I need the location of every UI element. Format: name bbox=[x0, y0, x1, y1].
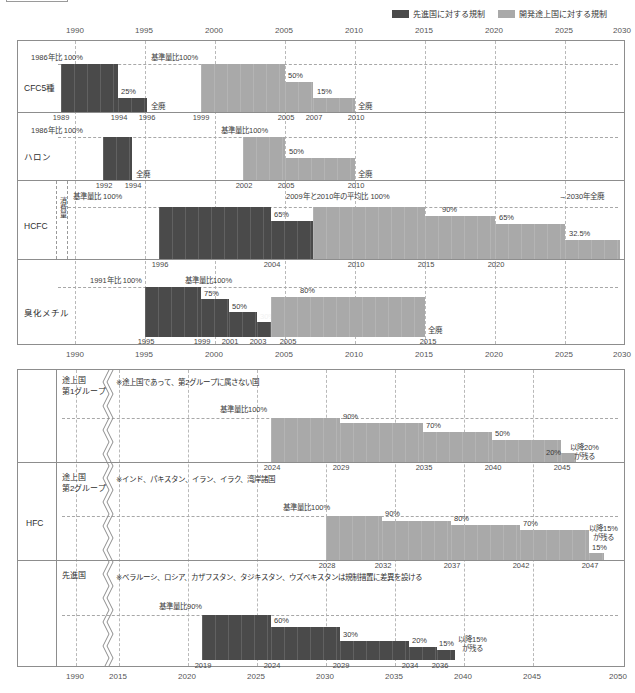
hfc-g1-year-tick: 2040 bbox=[485, 464, 502, 473]
bottom-axis-tick: 2045 bbox=[523, 672, 541, 681]
bar-halon-developed-100 bbox=[103, 137, 132, 180]
hfc-gutter-divider bbox=[56, 370, 57, 666]
hcfc-year-tick: 2010 bbox=[348, 261, 365, 270]
mid-axis-tick: 2030 bbox=[613, 350, 631, 359]
bar-hfc-g1-100 bbox=[271, 418, 340, 462]
top-axis-scale: 1990 1995 2000 2005 2010 2015 2020 2025 … bbox=[0, 26, 635, 38]
top-axis-tick: 1990 bbox=[66, 26, 84, 35]
cfc-year-tick: 1989 bbox=[53, 114, 70, 123]
bar-hfc-g2-90 bbox=[382, 521, 451, 560]
mid-axis-tick: 2010 bbox=[345, 350, 363, 359]
hfc-group1-title: 途上国 第1グループ bbox=[62, 376, 106, 398]
mebr-year-tick: 2003 bbox=[250, 338, 267, 347]
mebr-year-tick: 1999 bbox=[194, 338, 211, 347]
hfc-g3-year-tick: 2034 bbox=[402, 662, 419, 671]
top-axis-tick: 2010 bbox=[345, 26, 363, 35]
bar-hcfc-developing-90 bbox=[425, 216, 495, 259]
bar-mebr-developed-75 bbox=[201, 299, 229, 337]
hfc-group1-value-90: 90% bbox=[343, 413, 358, 422]
hfc-group1-value-70: 70% bbox=[426, 422, 441, 431]
hcfc-developing-value-32: 32.5% bbox=[569, 230, 590, 239]
gridline-2015 bbox=[425, 41, 426, 344]
cfc-year-tick: 1999 bbox=[193, 114, 210, 123]
panel-ozone-substances: CFC5種 1986年比 100% 基準量比100% 25% 全廃 50% 15… bbox=[17, 40, 625, 345]
mebr-developing-value-80: 80% bbox=[300, 287, 315, 296]
bar-halon-developing-100 bbox=[243, 137, 285, 180]
hfc-group2-title: 途上国 第2グループ bbox=[62, 473, 106, 495]
bar-cfc-developing-50 bbox=[285, 82, 313, 112]
hcfc-developed-baseline-label: 基準量比 100% bbox=[73, 193, 122, 202]
row-label-hcfc: HCFC bbox=[24, 221, 48, 231]
gridline-2015-b bbox=[119, 370, 120, 666]
top-axis-tick: 2025 bbox=[555, 26, 573, 35]
bar-hcfc-developing-100 bbox=[313, 207, 425, 259]
cfc-year-tick: 1994 bbox=[111, 114, 128, 123]
row-label-hfc: HFC bbox=[26, 518, 43, 528]
halon-year-tick: 2002 bbox=[236, 182, 253, 191]
hfc-group3-value-30: 30% bbox=[343, 631, 358, 640]
mid-axis-tick: 2025 bbox=[555, 350, 573, 359]
cfc-year-tick: 2007 bbox=[306, 114, 323, 123]
legend-item-developing: 開発途上国に対する規制 bbox=[498, 8, 607, 19]
bottom-axis-tick: 2020 bbox=[178, 672, 196, 681]
bar-hfc-g3-15 bbox=[437, 650, 455, 660]
legend-label-developed: 先進国に対する規制 bbox=[413, 8, 485, 19]
bottom-axis-tick: 2025 bbox=[247, 672, 265, 681]
cropped-top-box bbox=[6, 0, 68, 2]
cfc-developing-baseline-label: 基準量比100% bbox=[151, 54, 198, 63]
mebr-developed-value-50: 50% bbox=[232, 303, 247, 312]
halon-year-tick: 2010 bbox=[348, 182, 365, 191]
hfc-group3-value-15: 15% bbox=[439, 640, 454, 649]
bar-hfc-g2-80 bbox=[451, 525, 520, 560]
cfc-year-tick: 1996 bbox=[139, 114, 156, 123]
row-label-mebr: 臭化メチル bbox=[24, 306, 69, 318]
hfc-g3-year-tick: 2024 bbox=[264, 662, 281, 671]
halon-developing-baseline-label: 基準量比100% bbox=[221, 127, 268, 136]
cfc-year-tick: 2010 bbox=[348, 114, 365, 123]
hfc-g2-year-tick: 2042 bbox=[513, 562, 530, 571]
row-separator-hfc-g2 bbox=[18, 560, 624, 561]
mebr-developing-baseline-label: 基準量比100% bbox=[185, 277, 232, 286]
bottom-axis-tick: 2040 bbox=[454, 672, 472, 681]
bar-hcfc-developed-100 bbox=[159, 207, 271, 259]
hfc-g2-year-tick: 2037 bbox=[444, 562, 461, 571]
top-axis-tick: 1995 bbox=[135, 26, 153, 35]
mid-axis-tick: 2000 bbox=[205, 350, 223, 359]
hcfc-year-tick: 2015 bbox=[418, 261, 435, 270]
bar-hfc-g1-90 bbox=[340, 423, 423, 462]
hfc-g3-year-tick: 2019 bbox=[195, 662, 212, 671]
cfc-developing-value-15: 15% bbox=[317, 88, 332, 97]
bottom-axis-tick: 2015 bbox=[109, 672, 127, 681]
hfc-g2-year-tick: 2047 bbox=[582, 562, 599, 571]
bar-halon-developing-50 bbox=[285, 158, 355, 180]
baseline-100-cfc bbox=[58, 64, 618, 65]
hcfc-developed-value-65: 65% bbox=[274, 211, 289, 220]
gridline-1990-b bbox=[76, 370, 77, 666]
bar-hfc-g3-60 bbox=[271, 627, 340, 660]
halon-developed-baseline-label: 1986年比 100% bbox=[31, 127, 83, 136]
bar-mebr-developed-50 bbox=[229, 312, 257, 337]
mebr-year-tick: 1995 bbox=[138, 338, 155, 347]
bottom-axis-tick: 1990 bbox=[66, 672, 84, 681]
hcfc-developing-value-65: 65% bbox=[499, 214, 514, 223]
hfc-g1-year-tick: 2035 bbox=[416, 464, 433, 473]
bar-hfc-g3-20 bbox=[409, 647, 437, 660]
halon-year-tick: 1994 bbox=[125, 182, 142, 191]
hfc-group1-note: ※途上国であって、第2グループに属さない国 bbox=[116, 376, 259, 387]
bar-hfc-g2-100 bbox=[326, 516, 382, 560]
hfc-g3-year-tick: 2036 bbox=[432, 662, 449, 671]
hcfc-year-tick: 2004 bbox=[264, 261, 281, 270]
bar-mebr-developed-100 bbox=[145, 287, 201, 337]
halon-developing-end-label: 全廃 bbox=[358, 171, 372, 180]
mid-axis-tick: 2015 bbox=[415, 350, 433, 359]
panel-hfc: HFC 途上国 第1グループ ※途上国であって、第2グループに属さない国 基準量… bbox=[17, 369, 625, 667]
bar-hfc-g2-70 bbox=[520, 530, 589, 560]
middle-axis-scale: 1990 1995 2000 2005 2010 2015 2020 2025 … bbox=[0, 350, 635, 362]
hfc-group3-baseline-label: 基準量比90% bbox=[159, 603, 202, 612]
cfc-year-tick: 2005 bbox=[278, 114, 295, 123]
hfc-group1-tail-label: 以降20% が残る bbox=[570, 444, 599, 461]
row-separator-cfc bbox=[18, 112, 624, 113]
hfc-group2-value-90: 90% bbox=[385, 510, 400, 519]
legend-swatch-developing bbox=[498, 10, 515, 18]
bottom-axis-tick: 2030 bbox=[316, 672, 334, 681]
